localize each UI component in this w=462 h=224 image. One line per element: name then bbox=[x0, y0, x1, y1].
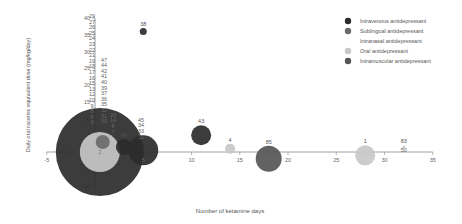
annotation: 5 bbox=[142, 157, 145, 163]
legend-item: Intranasal antidepressant bbox=[345, 38, 422, 44]
stacked-label: 3 bbox=[90, 119, 93, 125]
bubble-label: 85 bbox=[266, 139, 272, 145]
bubble-label: 4 bbox=[229, 137, 232, 143]
x-tick-label: 15 bbox=[237, 157, 243, 163]
x-tick-label: 30 bbox=[381, 157, 387, 163]
annotation: 50 bbox=[401, 147, 407, 153]
bubble bbox=[225, 144, 235, 154]
bubble-label: 46 bbox=[121, 132, 127, 138]
x-tick-label: 35 bbox=[430, 157, 436, 163]
bubble-chart: -55101520253035− 10− 5510152025303540 24… bbox=[0, 0, 462, 224]
bubble-label: 38 bbox=[140, 21, 146, 27]
x-tick-label: 20 bbox=[285, 157, 291, 163]
stacked-label: 11 bbox=[138, 134, 144, 140]
legend-swatch bbox=[345, 18, 351, 24]
stacked-label: 30 bbox=[101, 118, 107, 124]
legend-swatch bbox=[345, 38, 351, 44]
legend-item: Intravenous antidepressant bbox=[345, 18, 427, 24]
legend: Intravenous antidepressantSublingual ant… bbox=[345, 18, 432, 64]
bubble-label: 83 bbox=[401, 138, 407, 144]
bubbles: 2463843485183 bbox=[56, 21, 407, 196]
legend-label: Intramuscular antidepressant bbox=[360, 58, 431, 64]
legend-label: Intravenous antidepressant bbox=[360, 18, 427, 24]
bubble bbox=[355, 145, 375, 165]
x-axis-label: Number of ketamine days bbox=[196, 208, 264, 214]
legend-label: Oral antidepressant bbox=[360, 48, 408, 54]
legend-swatch bbox=[345, 58, 351, 64]
bubble bbox=[191, 125, 211, 145]
stacked-label: 7 bbox=[111, 129, 114, 135]
legend-item: Sublingual antidepressant bbox=[345, 28, 424, 34]
x-tick-label: 10 bbox=[188, 157, 194, 163]
legend-swatch bbox=[345, 28, 351, 34]
legend-item: Intramuscular antidepressant bbox=[345, 58, 432, 64]
bubble bbox=[256, 146, 282, 172]
x-tick-label: 25 bbox=[333, 157, 339, 163]
legend-label: Intranasal antidepressant bbox=[360, 38, 422, 44]
legend-swatch bbox=[345, 48, 351, 54]
x-tick-label: -5 bbox=[44, 157, 49, 163]
bubble-label: 43 bbox=[198, 118, 204, 124]
legend-item: Oral antidepressant bbox=[345, 48, 409, 54]
bubble bbox=[140, 28, 147, 35]
bubble bbox=[96, 135, 110, 149]
legend-label: Sublingual antidepressant bbox=[360, 28, 424, 34]
y-axis-label: Daily oral racemic equivalent dose (mg/k… bbox=[25, 38, 31, 152]
bubble-label: 1 bbox=[364, 138, 367, 144]
bubble-label: 2 bbox=[98, 149, 101, 155]
